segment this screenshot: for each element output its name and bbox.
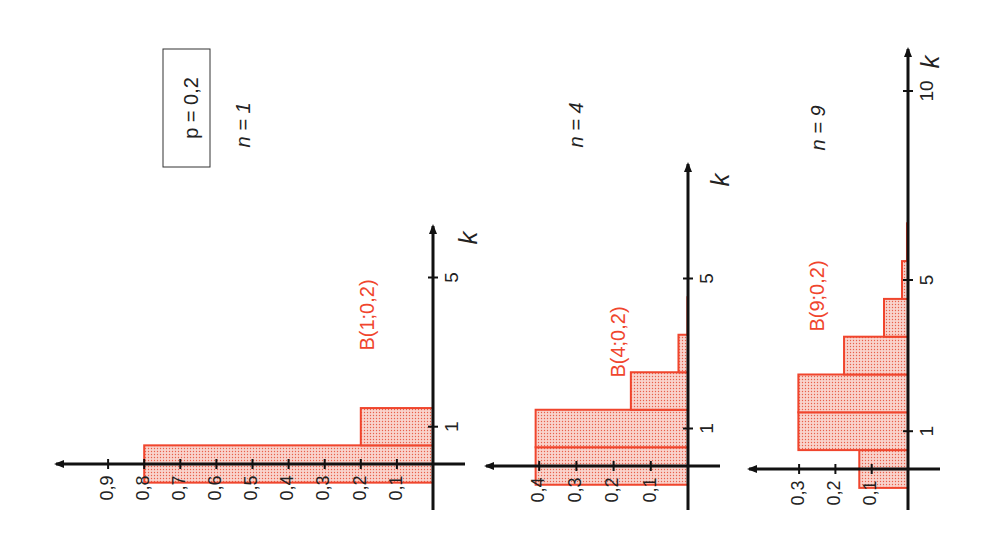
histogram-bars <box>144 408 433 483</box>
probability-tick-label: 0,3 <box>313 475 333 500</box>
bar-k4 <box>884 299 908 337</box>
n-label: n = 4 <box>565 102 587 147</box>
probability-tick-label: 0,2 <box>350 475 370 500</box>
probability-tick-label: 0,6 <box>205 475 225 500</box>
distribution-label: B(9;0,2) <box>806 260 828 331</box>
distribution-label: B(4;0,2) <box>607 306 629 377</box>
parameter-label: p = 0,2 <box>180 77 202 139</box>
probability-tick-label: 0,4 <box>277 475 297 500</box>
k-tick-label: 5 <box>696 273 717 284</box>
k-tick-label: 5 <box>441 272 462 283</box>
panel-n1: 0,10,20,30,40,50,60,70,80,915kn = 1B(1;0… <box>56 102 483 510</box>
bar-k2 <box>631 372 688 410</box>
probability-tick-label: 0,5 <box>241 475 261 500</box>
probability-tick-label: 0,1 <box>386 475 406 500</box>
probability-tick-label: 0,2 <box>602 477 622 502</box>
k-tick-label: 1 <box>441 421 462 432</box>
probability-tick-label: 0,1 <box>860 480 880 505</box>
parameter-box: p = 0,2 <box>163 49 210 167</box>
bar-k1 <box>536 410 688 448</box>
k-tick-label: 5 <box>916 275 937 286</box>
k-axis-label: k <box>453 230 483 245</box>
probability-tick-label: 0,7 <box>169 475 189 500</box>
n-label: n = 9 <box>807 105 829 150</box>
distribution-label: B(1;0,2) <box>356 279 378 350</box>
bar-k1 <box>798 412 908 450</box>
probability-tick-label: 0,4 <box>528 477 548 502</box>
bar-k1 <box>361 408 433 445</box>
binomial-histograms-figure: p = 0,2 0,10,20,30,40,50,60,70,80,915kn … <box>0 0 995 536</box>
bar-k2 <box>798 375 908 413</box>
panel-n4: 0,10,20,30,415kn = 4B(4;0,2) <box>486 102 735 510</box>
k-axis-label: k <box>915 54 945 69</box>
probability-tick-label: 0,9 <box>97 475 117 500</box>
k-axis-label: k <box>705 172 735 187</box>
probability-tick-label: 0,1 <box>640 477 660 502</box>
k-tick-label: 1 <box>916 426 937 437</box>
n-label: n = 1 <box>232 102 254 147</box>
k-tick-label: 10 <box>916 80 937 101</box>
bar-k3 <box>844 337 908 375</box>
panel-n9: 0,10,20,31510kn = 9B(9;0,2) <box>749 49 945 510</box>
probability-tick-label: 0,3 <box>788 480 808 505</box>
probability-tick-label: 0,2 <box>824 480 844 505</box>
probability-tick-label: 0,3 <box>565 477 585 502</box>
probability-tick-label: 0,8 <box>133 475 153 500</box>
k-tick-label: 1 <box>696 423 717 434</box>
